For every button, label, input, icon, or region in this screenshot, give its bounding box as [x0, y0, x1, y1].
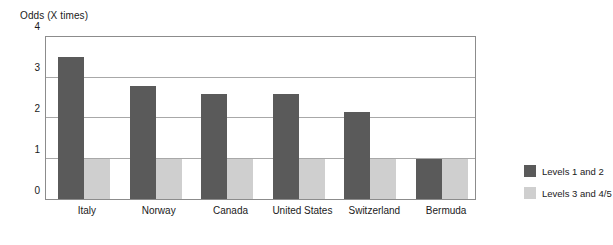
legend: Levels 1 and 2Levels 3 and 4/5 [524, 160, 613, 204]
bar [130, 86, 156, 199]
bar [227, 159, 253, 200]
x-axis-tick-label: Bermuda [404, 205, 476, 221]
bar-group [118, 37, 190, 199]
bar [201, 94, 227, 199]
legend-label: Levels 1 and 2 [542, 166, 604, 177]
bar [156, 159, 182, 200]
y-axis-tick-label: 2 [7, 102, 45, 113]
bar-group [189, 37, 261, 199]
y-axis-ticks: 01234 [0, 36, 45, 200]
bar [442, 159, 468, 200]
legend-swatch-icon [524, 187, 536, 199]
bar [416, 159, 442, 200]
x-axis-labels: ItalyNorwayCanadaUnited StatesSwitzerlan… [45, 205, 476, 221]
y-axis-tick-label: 3 [7, 61, 45, 72]
y-axis-tick-label: 4 [7, 20, 45, 31]
x-axis-tick-label: Canada [189, 205, 261, 221]
bar [299, 159, 325, 200]
bar-chart: Odds (X times) 01234 ItalyNorwayCanadaUn… [0, 0, 613, 245]
x-axis-tick-label: United States [260, 205, 332, 221]
bar [370, 159, 396, 200]
legend-label: Levels 3 and 4/5 [542, 188, 612, 199]
bar-group [332, 37, 404, 199]
y-axis-tick-label: 1 [7, 143, 45, 154]
bar [58, 57, 84, 199]
plot-area [45, 36, 476, 200]
bar-group [46, 37, 118, 199]
x-axis-tick-label: Norway [117, 205, 189, 221]
bar-group [261, 37, 333, 199]
bar [344, 112, 370, 199]
y-axis-tick-label: 0 [7, 184, 45, 195]
legend-item: Levels 3 and 4/5 [524, 182, 613, 204]
x-axis-tick-label: Italy [45, 205, 117, 221]
legend-item: Levels 1 and 2 [524, 160, 613, 182]
bar-group [404, 37, 476, 199]
x-axis-tick-label: Switzerland [332, 205, 404, 221]
bar-groups [46, 37, 475, 199]
legend-swatch-icon [524, 165, 536, 177]
bar [84, 159, 110, 200]
bar [273, 94, 299, 199]
